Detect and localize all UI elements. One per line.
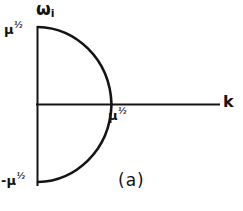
x-crossing-value-label: μ½ <box>108 109 126 122</box>
x-axis-name-label: k <box>223 94 234 110</box>
figure-panel-a: ωi k μ½ -μ½ μ½ (a) <box>0 0 243 211</box>
y-axis-name-label: ωi <box>36 1 55 18</box>
panel-caption: (a) <box>118 172 145 189</box>
y-top-value-label: μ½ <box>4 23 22 36</box>
y-bottom-value-label: -μ½ <box>1 174 24 187</box>
